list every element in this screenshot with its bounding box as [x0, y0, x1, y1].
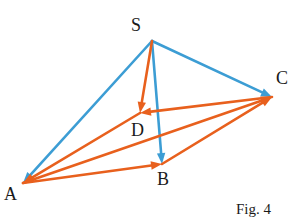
vertex-label-s: S: [131, 16, 141, 34]
edge-c-d: [140, 97, 272, 116]
figure-caption: Fig. 4: [236, 202, 271, 217]
vertex-label-d: D: [131, 121, 144, 139]
arrowhead-icon: [260, 89, 272, 97]
vertex-label-a: A: [4, 185, 17, 203]
edge-shaft: [29, 41, 152, 176]
edge-shaft: [152, 41, 264, 93]
vertex-label-c: C: [276, 69, 288, 87]
edge-s-d: [138, 41, 152, 113]
vector-diagram-svg: [0, 0, 304, 223]
edge-shaft: [162, 102, 264, 164]
edge-s-b: [152, 41, 165, 164]
edge-a-b: [23, 161, 162, 183]
figure-canvas: SABCD Fig. 4: [0, 0, 304, 223]
vertex-label-b: B: [157, 170, 169, 188]
edge-s-c: [152, 41, 272, 97]
edge-shaft: [23, 165, 153, 183]
edge-layer: [23, 41, 272, 183]
